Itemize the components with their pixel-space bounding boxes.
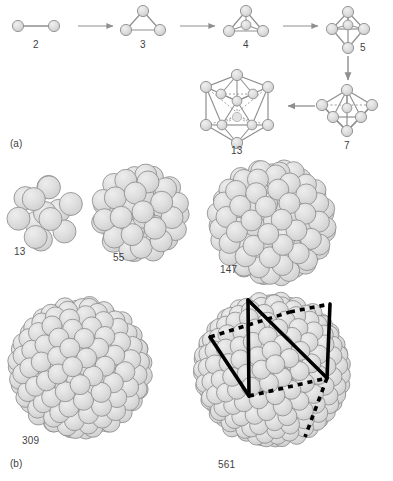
label-cluster-13: 13	[14, 247, 26, 257]
structure-3-triangle	[120, 5, 165, 35]
label-count-7: 7	[344, 141, 350, 151]
cluster-13	[7, 175, 82, 251]
label-count-5: 5	[360, 43, 366, 53]
label-cluster-561: 561	[218, 460, 235, 470]
label-cluster-55: 55	[113, 253, 125, 263]
cluster-growth-figure: 2 3 4 5 7 13 (a) 13 55 147 309 561 (b)	[0, 0, 393, 481]
cluster-55	[92, 164, 189, 262]
panel-label-a: (a)	[10, 139, 22, 149]
structure-4-tetrahedron	[223, 5, 268, 36]
label-cluster-309: 309	[22, 436, 39, 446]
panel-label-b: (b)	[10, 459, 22, 469]
icosahedron-overlay-561	[210, 300, 330, 396]
icosahedron-overlay-561-dashed	[210, 304, 330, 437]
label-count-4: 4	[243, 40, 249, 50]
label-count-2: 2	[33, 40, 39, 50]
label-count-3: 3	[140, 40, 146, 50]
structure-13-icosahedron	[200, 69, 273, 148]
panel-b-clusters	[0, 0, 393, 481]
structure-2-dimer	[12, 20, 59, 31]
label-count-13-polyhedron: 13	[231, 146, 243, 156]
cluster-309	[8, 296, 153, 439]
label-cluster-147: 147	[220, 265, 237, 275]
cluster-561	[193, 292, 350, 447]
panel-a-structures	[0, 0, 393, 481]
structure-7-pentagonal-bipyramid	[316, 84, 377, 136]
